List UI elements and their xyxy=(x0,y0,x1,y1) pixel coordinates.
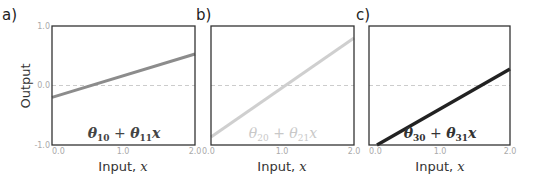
xtick-2: 2.0 xyxy=(348,147,361,156)
ytick-1: 1.0 xyxy=(37,22,50,31)
x-axis-label-var: x xyxy=(140,159,148,174)
xtick-1: 1.0 xyxy=(434,147,447,156)
panel-c: c) 0.0 1.0 2.0 Input, x θ30 + θ31x xyxy=(356,6,516,174)
line-series-a xyxy=(52,54,195,97)
xtick-0: 0.0 xyxy=(52,147,65,156)
xtick-0: 0.0 xyxy=(202,147,215,156)
panel-a-label: a) xyxy=(2,6,17,24)
panel-c-label: c) xyxy=(356,6,370,24)
line-series-b xyxy=(211,38,354,137)
figure: a) 1.0 0.0 -1.0 0.0 1.0 2.0 Output Input… xyxy=(0,0,537,180)
xtick-2: 2.0 xyxy=(189,147,202,156)
x-axis-label-b: Input, x xyxy=(257,159,307,174)
panel-b-label: b) xyxy=(196,6,211,24)
ytick-0: 0.0 xyxy=(37,81,50,90)
y-axis-label: Output xyxy=(18,63,33,108)
panel-b: b) 0.0 1.0 2.0 Input, x θ20 + θ21x xyxy=(196,6,360,174)
panel-a: a) 1.0 0.0 -1.0 0.0 1.0 2.0 Output Input… xyxy=(2,6,201,174)
ytick-neg1: -1.0 xyxy=(34,141,50,150)
x-axis-label-text: Input, xyxy=(98,159,140,174)
equation-b: θ20 + θ21x xyxy=(249,125,317,143)
equation-a: θ10 + θ11x xyxy=(88,125,161,143)
xtick-0: 0.0 xyxy=(369,147,382,156)
x-axis-label-c: Input, x xyxy=(415,159,465,174)
xtick-1: 1.0 xyxy=(276,147,289,156)
x-axis-label-a: Input, x xyxy=(98,159,148,174)
xtick-1: 1.0 xyxy=(117,147,130,156)
equation-c: θ30 + θ31x xyxy=(404,125,477,143)
xtick-2: 2.0 xyxy=(504,147,517,156)
